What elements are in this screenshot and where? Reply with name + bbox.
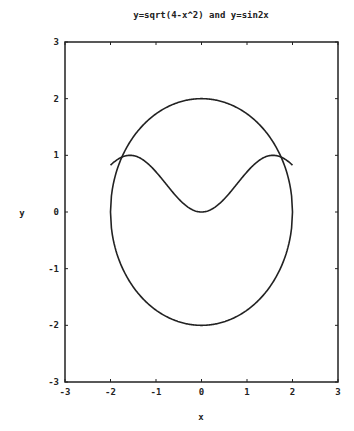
axis-ticks: -3-2-10123-3-2-10123 [48,37,341,397]
y-tick-label: -1 [48,264,59,274]
x-tick-label: 0 [199,387,204,397]
y-axis-label: y [19,208,25,218]
y-tick-label: -3 [48,377,59,387]
y-tick-label: -2 [48,320,59,330]
x-tick-label: 3 [335,387,340,397]
y-tick-label: 0 [54,207,59,217]
curve-line [111,155,293,212]
plot-curves [111,99,293,326]
x-tick-label: -2 [105,387,116,397]
y-tick-label: 1 [54,150,59,160]
x-axis-label: x [198,412,204,422]
y-tick-label: 3 [54,37,59,47]
x-tick-label: 2 [290,387,295,397]
y-tick-label: 2 [54,94,59,104]
curve-line [111,212,293,325]
x-tick-label: 1 [244,387,249,397]
x-tick-label: -1 [151,387,162,397]
curve-line [111,99,293,212]
x-tick-label: -3 [60,387,71,397]
chart: y=sqrt(4-x^2) and y=sin2x -3-2-10123-3-2… [0,0,354,431]
chart-title: y=sqrt(4-x^2) and y=sin2x [133,10,269,20]
